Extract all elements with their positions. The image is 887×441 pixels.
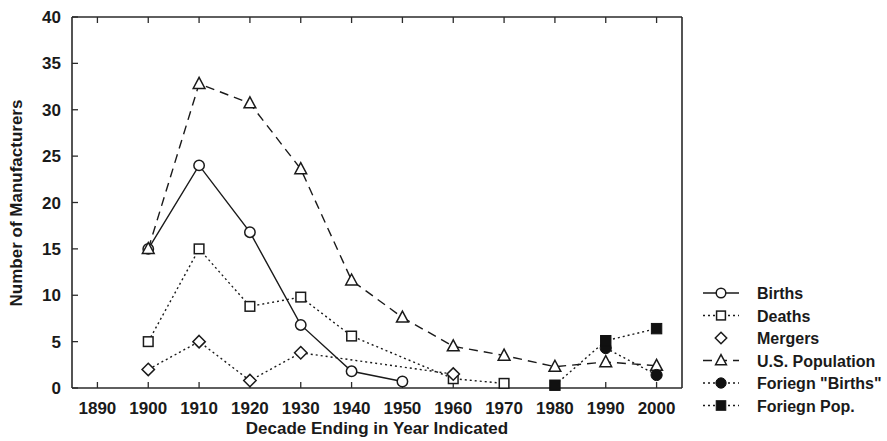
data-marker <box>346 274 358 285</box>
data-marker <box>244 374 256 386</box>
legend-label: Foriegn "Births" <box>757 375 882 392</box>
legend-item-foriegn-pop: Foriegn Pop. <box>703 398 855 415</box>
data-marker <box>245 302 255 312</box>
x-tick-label: 1920 <box>231 399 269 418</box>
series-line <box>606 348 657 375</box>
y-tick-label: 20 <box>42 194 61 213</box>
y-tick-label: 0 <box>52 379 61 398</box>
data-marker <box>296 320 306 330</box>
data-marker <box>499 379 509 389</box>
data-marker <box>651 369 662 380</box>
data-marker <box>716 401 726 411</box>
x-tick-label: 1930 <box>282 399 320 418</box>
chart-legend: BirthsDeathsMergersU.S. PopulationForieg… <box>703 285 882 415</box>
legend-label: U.S. Population <box>757 353 875 370</box>
x-tick-label: 1950 <box>384 399 422 418</box>
data-marker <box>716 288 726 298</box>
x-axis-tick-labels: 1890190019101920193019401950196019701980… <box>79 399 676 418</box>
data-marker <box>550 380 560 390</box>
y-axis-title: Number of Manufacturers <box>7 100 26 307</box>
y-tick-label: 35 <box>42 54 61 73</box>
series-line <box>148 165 402 381</box>
y-tick-label: 25 <box>42 147 61 166</box>
legend-item-mergers: Mergers <box>715 330 819 347</box>
x-tick-label: 1990 <box>587 399 625 418</box>
legend-item-deaths: Deaths <box>703 308 810 325</box>
legend-label: Births <box>757 285 803 302</box>
data-series-layer <box>142 77 662 390</box>
data-marker <box>600 356 612 367</box>
data-marker <box>193 335 205 347</box>
data-marker <box>397 376 407 386</box>
legend-item-births: Births <box>703 285 803 302</box>
x-tick-label: 1900 <box>129 399 167 418</box>
data-marker <box>194 244 204 254</box>
data-marker <box>447 340 459 351</box>
data-marker <box>143 337 153 347</box>
y-axis-tick-labels: 0510152025303540 <box>42 8 61 398</box>
y-tick-label: 5 <box>52 333 61 352</box>
data-marker <box>244 97 256 108</box>
legend-label: Deaths <box>757 308 810 325</box>
legend-label: Foriegn Pop. <box>757 398 855 415</box>
legend-item-u-s-population: U.S. Population <box>703 353 875 370</box>
legend-item-foriegn-births: Foriegn "Births" <box>703 375 882 392</box>
x-tick-label: 1890 <box>79 399 117 418</box>
legend-label: Mergers <box>757 330 819 347</box>
data-marker <box>651 323 661 333</box>
series-deaths <box>143 244 508 388</box>
data-marker <box>347 331 357 341</box>
y-tick-label: 15 <box>42 240 61 259</box>
series-line <box>148 84 656 367</box>
y-tick-label: 40 <box>42 8 61 27</box>
data-marker <box>296 292 306 302</box>
x-tick-label: 1940 <box>333 399 371 418</box>
series-births <box>143 160 408 387</box>
data-marker <box>295 347 307 359</box>
y-tick-label: 10 <box>42 286 61 305</box>
data-marker <box>715 332 726 343</box>
chart-figure: 0510152025303540 18901900191019201930194… <box>0 0 887 441</box>
data-marker <box>194 160 204 170</box>
data-marker <box>245 227 255 237</box>
series-mergers <box>142 335 459 386</box>
x-tick-label: 1910 <box>180 399 218 418</box>
data-marker <box>193 77 205 88</box>
x-tick-label: 1980 <box>536 399 574 418</box>
data-marker <box>346 366 356 376</box>
data-marker <box>142 363 154 375</box>
x-tick-label: 1960 <box>434 399 472 418</box>
series-u-s-population <box>142 77 662 371</box>
data-marker <box>397 311 409 322</box>
y-tick-label: 30 <box>42 101 61 120</box>
x-tick-label: 1970 <box>485 399 523 418</box>
data-marker <box>716 378 726 388</box>
x-axis-tick-marks <box>97 17 656 388</box>
x-tick-label: 2000 <box>638 399 676 418</box>
data-marker <box>716 355 727 365</box>
data-marker <box>601 335 611 345</box>
y-axis-tick-marks <box>72 17 78 388</box>
x-axis-title: Decade Ending in Year Indicated <box>246 419 508 438</box>
series-line <box>148 249 504 384</box>
plot-frame <box>72 17 682 388</box>
data-marker <box>717 311 726 320</box>
